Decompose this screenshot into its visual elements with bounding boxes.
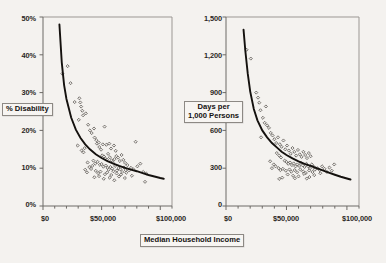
data-point — [276, 136, 279, 139]
data-point — [302, 150, 305, 153]
data-point — [256, 96, 259, 99]
x-ticks — [226, 206, 359, 210]
plot-frame — [226, 17, 359, 206]
data-point — [260, 136, 263, 139]
data-point — [269, 160, 272, 163]
right-x-ticklabel-50k: $50,000 — [264, 214, 308, 223]
data-point — [292, 174, 295, 177]
right-x-ticklabel-0: $0 — [216, 214, 240, 223]
data-point — [333, 163, 336, 166]
data-point — [278, 177, 281, 180]
data-point — [271, 134, 274, 137]
data-point — [286, 173, 289, 176]
data-point — [269, 131, 272, 134]
data-point — [278, 143, 281, 146]
data-point — [273, 138, 276, 141]
right-y-ticklabel-1200: 1,200 — [186, 51, 222, 60]
right-y-ticklabel-900: 900 — [186, 88, 222, 97]
data-point — [304, 153, 307, 156]
right-y-axis-label-line1: Days per — [198, 102, 230, 111]
data-point — [307, 152, 310, 155]
data-point — [259, 109, 262, 112]
data-point — [263, 121, 266, 124]
figure-container: 50% 40% 30% 20% 10% 0% $0 $50,000 $100,0… — [0, 0, 386, 263]
data-point — [328, 166, 331, 169]
data-point — [291, 146, 294, 149]
data-point — [275, 152, 278, 155]
data-point — [275, 141, 278, 144]
scatter-points — [245, 48, 336, 180]
data-point — [296, 148, 299, 151]
right-y-ticklabel-300: 300 — [186, 163, 222, 172]
data-point — [305, 157, 308, 160]
data-point — [330, 169, 333, 172]
shared-x-axis-label: Median Household Income — [140, 234, 244, 247]
data-point — [287, 149, 290, 152]
data-point — [270, 167, 273, 170]
right-y-axis-label: Days per 1,000 Persons — [184, 101, 243, 123]
data-point — [293, 169, 296, 172]
data-point — [284, 148, 287, 151]
right-y-ticklabel-0: 0 — [186, 200, 222, 209]
data-point — [249, 57, 252, 60]
data-point — [296, 171, 299, 174]
trend-curve — [244, 30, 351, 180]
right-chart-panel: 1,500 1,200 900 600 300 0 $0 $50,000 $10… — [0, 0, 386, 263]
right-y-ticklabel-1500: 1,500 — [186, 14, 222, 23]
data-point — [300, 155, 303, 158]
data-point — [267, 126, 270, 129]
data-point — [255, 91, 258, 94]
data-point — [280, 145, 283, 148]
data-point — [295, 154, 298, 157]
data-point — [321, 165, 324, 168]
data-point — [293, 150, 296, 153]
data-point — [309, 155, 312, 158]
axis-lines — [226, 17, 359, 206]
data-point — [298, 153, 301, 156]
data-point — [319, 172, 322, 175]
right-x-ticklabel-100k: $100,000 — [331, 214, 383, 223]
data-point — [313, 174, 316, 177]
data-point — [284, 169, 287, 172]
right-y-axis-label-line2: 1,000 Persons — [188, 111, 239, 120]
frame-box — [226, 17, 359, 206]
right-y-ticklabel-600: 600 — [186, 126, 222, 135]
data-point — [261, 116, 264, 119]
data-point — [286, 144, 289, 147]
data-point — [281, 176, 284, 179]
data-point — [258, 101, 261, 104]
data-point — [293, 177, 296, 180]
data-point — [264, 105, 267, 108]
data-point — [266, 124, 269, 127]
data-point — [297, 175, 300, 178]
data-point — [299, 168, 302, 171]
data-point — [311, 170, 314, 173]
data-point — [282, 139, 285, 142]
data-point — [289, 152, 292, 155]
